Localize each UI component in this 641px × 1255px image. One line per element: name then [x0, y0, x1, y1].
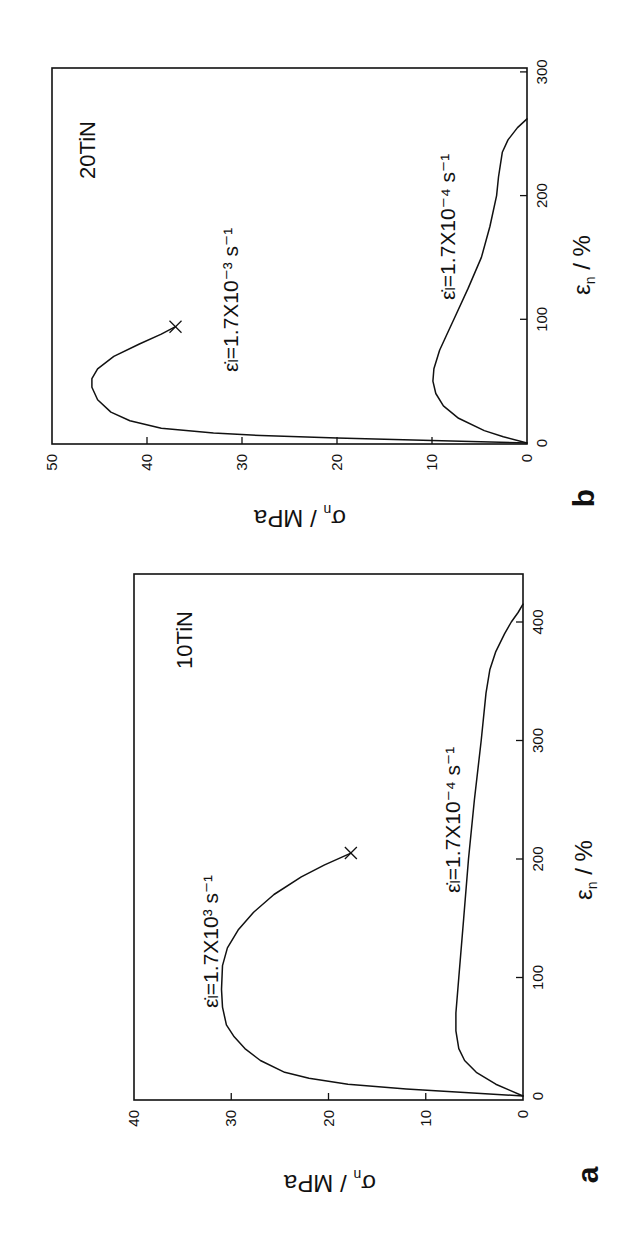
fracture-x-marker — [170, 321, 182, 333]
sigma-tick-label: 10 — [423, 454, 440, 471]
sigma-tick-label: 0 — [514, 1110, 531, 1118]
sigma-tick-label: 50 — [43, 454, 60, 471]
epsilon-tick-label: 400 — [529, 609, 546, 634]
sample-label: 20TiN — [75, 121, 100, 179]
sigma-tick-label: 40 — [125, 1110, 142, 1127]
epsilon-axis-label: εn / % — [570, 840, 600, 900]
panel-letter: a — [571, 1166, 604, 1183]
epsilon-tick-label: 0 — [533, 439, 550, 447]
sigma-tick-label: 0 — [518, 454, 535, 462]
high-rate-label: ε̇ₗ=1.7X10⁻³ s⁻¹ — [219, 228, 242, 372]
panel-a-10tin: 010203040010020030040010TiNε̇ₗ=1.7X10³ s… — [125, 574, 604, 1197]
sigma-tick-label: 40 — [138, 454, 155, 471]
epsilon-tick-label: 0 — [529, 1092, 546, 1100]
epsilon-tick-label: 200 — [529, 846, 546, 871]
epsilon-tick-label: 100 — [533, 307, 550, 332]
sample-label: 10TiN — [172, 611, 197, 669]
sigma-tick-label: 30 — [233, 454, 250, 471]
epsilon-axis-label: εn / % — [568, 235, 598, 295]
high-rate-curve — [92, 327, 527, 443]
epsilon-tick-label: 100 — [529, 965, 546, 990]
low-rate-label: ε̇ₗ=1.7X10⁻⁴ s⁻¹ — [436, 154, 459, 300]
fracture-x-marker — [345, 847, 357, 859]
panel-b-20tin: 01020304050010020030020TiNε̇ₗ=1.7X10⁻³ s… — [43, 59, 600, 532]
sigma-tick-label: 10 — [417, 1110, 434, 1127]
low-rate-label: ε̇ₗ=1.7X10⁻⁴ s⁻¹ — [441, 747, 464, 893]
high-rate-label: ε̇ₗ=1.7X10³ s⁻¹ — [199, 875, 222, 1008]
sigma-tick-label: 20 — [328, 454, 345, 471]
epsilon-tick-label: 200 — [533, 183, 550, 208]
epsilon-tick-label: 300 — [533, 59, 550, 84]
sigma-axis-label: σn / MPa — [283, 1167, 376, 1197]
panel-letter: b — [567, 489, 600, 507]
sigma-axis-label: σn / MPa — [253, 502, 346, 532]
sigma-tick-label: 20 — [320, 1110, 337, 1127]
high-rate-curve — [222, 853, 524, 1096]
low-rate-curve — [456, 604, 523, 1096]
rotated-stress-strain-figure: 01020304050010020030020TiNε̇ₗ=1.7X10⁻³ s… — [0, 0, 641, 1255]
epsilon-tick-label: 300 — [529, 728, 546, 753]
sigma-tick-label: 30 — [222, 1110, 239, 1127]
